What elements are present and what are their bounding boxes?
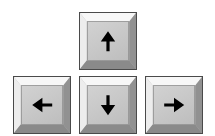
key-face-up: ↑ [87,21,130,60]
key-face-left: ← [21,85,64,124]
arrow-key-right[interactable]: → [145,76,203,134]
arrow-key-left[interactable]: ← [13,76,71,134]
key-face-right: → [153,85,196,124]
key-face-down: ↓ [87,85,130,124]
arrow-right-icon [161,92,187,118]
arrow-left-icon [29,92,55,118]
arrow-down-icon [95,92,121,118]
arrow-key-down[interactable]: ↓ [79,76,137,134]
arrow-key-cluster: ↑ ← ↓ [0,0,215,136]
arrow-key-up[interactable]: ↑ [79,12,137,70]
arrow-up-icon [95,28,121,54]
